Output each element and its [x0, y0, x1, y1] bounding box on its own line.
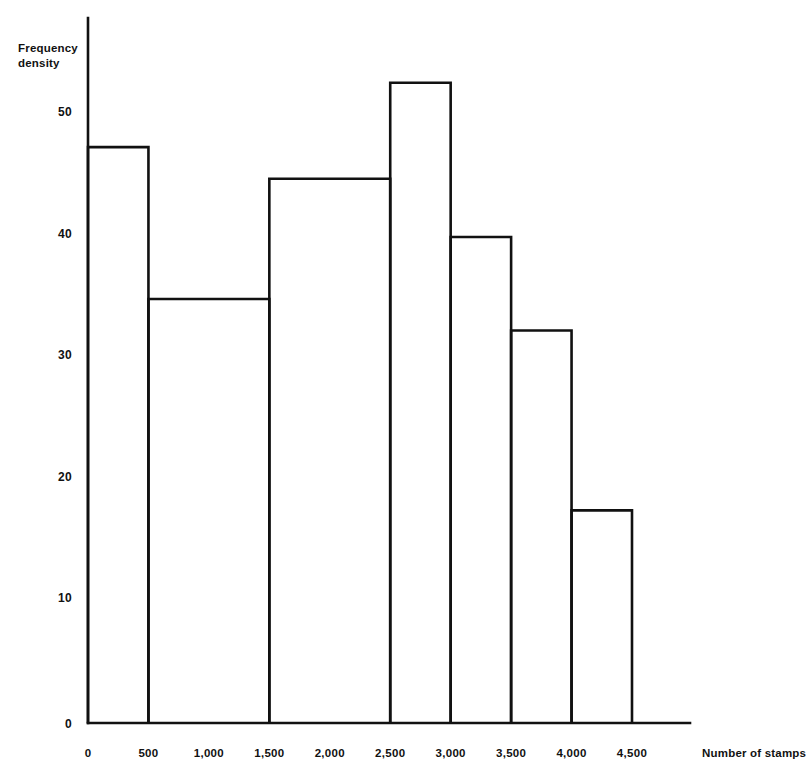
y-tick-label: 40 — [58, 227, 72, 241]
x-tick-label: 3,500 — [496, 747, 526, 759]
histogram-bar — [572, 510, 632, 723]
chart-canvas: Frequency density 50 40 30 20 10 0 05001… — [0, 0, 812, 777]
y-tick-labels: 50 40 30 20 10 0 — [58, 105, 72, 731]
x-tick-label: 2,500 — [375, 747, 405, 759]
x-tick-label: 0 — [85, 747, 92, 759]
x-tick-label: 4,500 — [617, 747, 647, 759]
x-tick-label: 1,500 — [254, 747, 284, 759]
x-tick-label: 3,000 — [436, 747, 466, 759]
histogram-bar — [390, 83, 450, 723]
histogram-bar — [88, 147, 148, 723]
y-axis-title-line2: density — [18, 57, 60, 69]
x-tick-label: 1,000 — [194, 747, 224, 759]
y-tick-label: 0 — [65, 717, 72, 731]
histogram-chart: Frequency density 50 40 30 20 10 0 05001… — [0, 0, 812, 777]
x-tick-labels: 05001,0001,5002,0002,5003,0003,5004,0004… — [85, 747, 647, 759]
y-axis-title-line1: Frequency — [18, 42, 78, 54]
histogram-bar — [269, 179, 390, 723]
histogram-bar — [511, 331, 571, 723]
bars-group — [88, 83, 632, 723]
y-tick-label: 50 — [58, 105, 72, 119]
x-tick-label: 500 — [138, 747, 158, 759]
histogram-bar — [148, 299, 269, 723]
histogram-bar — [451, 237, 511, 723]
y-tick-label: 30 — [58, 348, 72, 362]
x-tick-label: 2,000 — [315, 747, 345, 759]
y-tick-label: 20 — [58, 470, 72, 484]
y-tick-label: 10 — [58, 591, 72, 605]
x-tick-label: 4,000 — [556, 747, 586, 759]
x-axis-title: Number of stamps — [702, 747, 806, 759]
